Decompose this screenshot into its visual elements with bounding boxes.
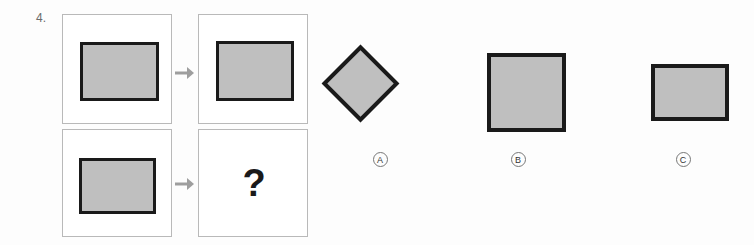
matrix-cell-r2c1 bbox=[62, 129, 172, 237]
answer-option-c[interactable]: C bbox=[620, 36, 730, 186]
option-a-shape-area bbox=[305, 36, 415, 136]
square-shape bbox=[487, 53, 566, 132]
answer-option-b[interactable]: B bbox=[456, 36, 566, 186]
wide-rectangle-shape bbox=[651, 64, 729, 121]
option-letter-a: A bbox=[373, 152, 388, 167]
option-b-shape-area bbox=[456, 36, 566, 136]
filled-rectangle-shape bbox=[79, 158, 156, 214]
matrix-cell-r1c1 bbox=[62, 14, 172, 124]
transform-arrow-row2-icon bbox=[174, 174, 196, 194]
diamond-shape bbox=[322, 45, 400, 123]
filled-rectangle-shape bbox=[216, 41, 294, 101]
transform-arrow-row1-icon bbox=[174, 63, 196, 83]
answer-option-a[interactable]: A bbox=[305, 36, 415, 186]
question-number: 4. bbox=[36, 11, 46, 25]
option-letter-b: B bbox=[511, 152, 526, 167]
puzzle-container: 4. ? A B bbox=[0, 0, 754, 245]
option-letter-c: C bbox=[676, 152, 691, 167]
option-c-label: C bbox=[628, 152, 738, 167]
question-mark-placeholder: ? bbox=[198, 129, 308, 237]
filled-rectangle-shape bbox=[80, 42, 159, 101]
option-a-label: A bbox=[325, 152, 435, 167]
option-c-shape-area bbox=[620, 36, 730, 136]
option-b-label: B bbox=[463, 152, 573, 167]
matrix-cell-r1c2 bbox=[198, 14, 308, 124]
